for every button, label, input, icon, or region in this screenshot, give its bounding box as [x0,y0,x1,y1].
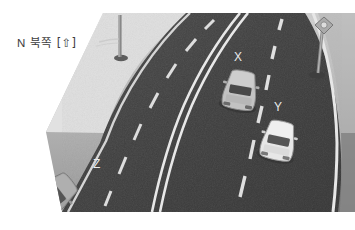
north-direction-label: N 북쪽 [⇧] [17,38,76,50]
up-arrow-icon: ⇧ [62,36,72,50]
vehicle-z-trunk [38,186,60,211]
vehicle-z-taillight-left [34,190,41,198]
north-bracket-close: ] [72,36,77,50]
figure-root: X Y [0,0,355,230]
north-korean-text: 북쪽 [30,36,53,50]
north-letter: N [17,37,26,49]
vehicle-z-shadow [27,184,60,213]
vehicle-z-taillight-right [47,207,54,213]
vehicle-z-mirror-left [48,174,53,179]
